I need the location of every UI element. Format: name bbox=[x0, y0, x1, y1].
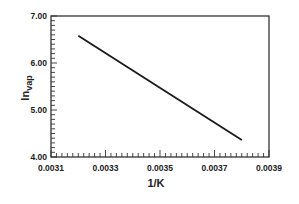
y-axis-label-sub: vap bbox=[24, 75, 34, 91]
x-tick-label: 0.0039 bbox=[256, 163, 282, 173]
y-tick-label: 4.00 bbox=[30, 152, 47, 162]
x-axis-label: 1/K bbox=[147, 177, 164, 189]
x-tick-label: 0.0033 bbox=[93, 163, 119, 173]
x-tick-label: 0.0037 bbox=[202, 163, 228, 173]
x-tick-label: 0.0031 bbox=[38, 163, 64, 173]
y-axis-label-main: ln bbox=[19, 91, 31, 101]
y-tick-label: 6.00 bbox=[30, 58, 47, 68]
svg-text:lnvap: lnvap bbox=[19, 75, 34, 101]
y-minor-ticks bbox=[51, 16, 57, 157]
y-axis-label: lnvap bbox=[19, 75, 34, 101]
y-tick-label: 7.00 bbox=[30, 11, 47, 21]
data-series-line bbox=[78, 36, 242, 140]
x-tick-label: 0.0035 bbox=[147, 163, 173, 173]
chart: 7.00 6.00 5.00 4.00 0.0031 0.0033 0.0035… bbox=[0, 0, 299, 204]
y-tick-label: 5.00 bbox=[30, 105, 47, 115]
x-minor-ticks bbox=[51, 150, 269, 157]
